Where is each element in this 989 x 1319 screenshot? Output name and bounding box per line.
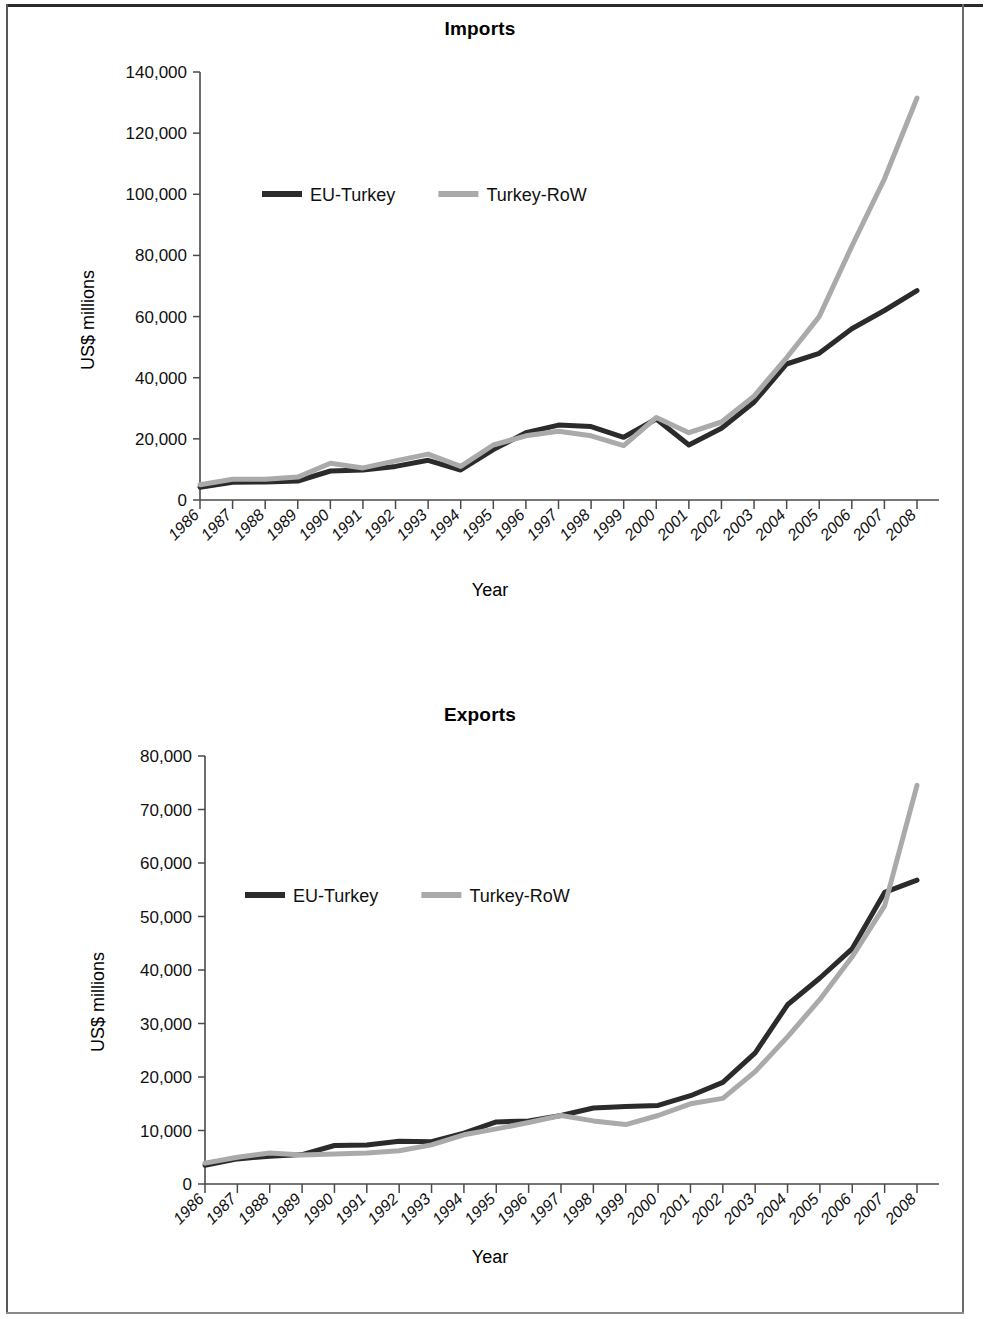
x-tick-label: 2002: [686, 506, 724, 544]
x-tick-label: 1993: [396, 1190, 433, 1227]
x-tick-label: 1992: [364, 1190, 401, 1227]
x-tick-label: 1989: [263, 506, 300, 543]
x-tick-label: 1987: [198, 505, 236, 543]
x-tick-label: 1991: [328, 506, 365, 543]
x-tick-label: 2001: [653, 506, 691, 544]
y-tick-label: 20,000: [140, 1068, 192, 1087]
page-border-bottom: [6, 1312, 964, 1314]
x-tick-label: 2004: [751, 506, 789, 544]
x-tick-label: 1994: [429, 1190, 466, 1227]
imports-chart-panel: Imports US$ millions Year 020,00040,0006…: [0, 0, 960, 660]
x-tick-label: 1988: [235, 1190, 272, 1227]
y-tick-label: 140,000: [126, 63, 187, 82]
x-tick-label: 2001: [655, 1190, 693, 1228]
series-line-eu-turkey: [200, 291, 917, 488]
y-tick-label: 80,000: [140, 747, 192, 766]
y-tick-label: 70,000: [140, 801, 192, 820]
x-tick-label: 2008: [881, 1190, 919, 1228]
x-tick-label: 1987: [202, 1189, 240, 1227]
x-tick-label: 2007: [849, 1189, 888, 1228]
x-tick-label: 2006: [816, 506, 854, 544]
x-tick-label: 2007: [849, 505, 888, 544]
x-tick-label: 2005: [784, 1190, 822, 1228]
legend-label: EU-Turkey: [310, 185, 395, 205]
x-tick-label: 2000: [620, 506, 658, 544]
x-tick-label: 1986: [170, 1190, 207, 1227]
legend-label: Turkey-RoW: [486, 185, 586, 205]
x-tick-label: 1988: [230, 506, 267, 543]
x-tick-label: 2003: [719, 1190, 757, 1228]
y-tick-label: 50,000: [140, 908, 192, 927]
imports-plot-area: 020,00040,00060,00080,000100,000120,0001…: [0, 0, 960, 660]
y-tick-label: 60,000: [135, 308, 187, 327]
y-tick-label: 80,000: [135, 246, 187, 265]
x-tick-label: 1996: [494, 1190, 531, 1227]
legend-label: Turkey-RoW: [469, 886, 569, 906]
x-tick-label: 1992: [360, 506, 397, 543]
series-line-turkey-row: [205, 785, 917, 1163]
x-tick-label: 1997: [523, 505, 561, 543]
x-tick-label: 2000: [622, 1190, 660, 1228]
exports-plot-area: 010,00020,00030,00040,00050,00060,00070,…: [0, 692, 960, 1312]
page-border-right: [962, 4, 964, 1314]
series-line-eu-turkey: [205, 880, 917, 1165]
x-tick-label: 1993: [393, 506, 430, 543]
exports-chart-panel: Exports US$ millions Year 010,00020,0003…: [0, 692, 960, 1312]
x-tick-label: 1990: [299, 1190, 336, 1227]
x-tick-label: 1999: [589, 506, 626, 543]
x-tick-label: 1997: [526, 1189, 564, 1227]
legend-label: EU-Turkey: [293, 886, 378, 906]
y-tick-label: 40,000: [135, 369, 187, 388]
y-tick-label: 10,000: [140, 1122, 192, 1141]
x-tick-label: 1995: [461, 1190, 498, 1227]
y-tick-label: 120,000: [126, 124, 187, 143]
x-tick-label: 2005: [783, 506, 821, 544]
x-tick-label: 1989: [267, 1190, 304, 1227]
x-tick-label: 1990: [295, 506, 332, 543]
x-tick-label: 2002: [687, 1190, 725, 1228]
page-root: Imports US$ millions Year 020,00040,0006…: [0, 0, 989, 1319]
y-tick-label: 20,000: [135, 430, 187, 449]
y-tick-label: 0: [178, 491, 187, 510]
x-tick-label: 1995: [458, 506, 495, 543]
y-tick-label: 100,000: [126, 185, 187, 204]
y-tick-label: 0: [183, 1175, 192, 1194]
x-tick-label: 1996: [491, 506, 528, 543]
y-tick-label: 60,000: [140, 854, 192, 873]
x-tick-label: 1999: [591, 1190, 628, 1227]
y-tick-label: 30,000: [140, 1015, 192, 1034]
x-tick-label: 2003: [718, 506, 756, 544]
x-tick-label: 1991: [332, 1190, 369, 1227]
x-tick-label: 1998: [556, 506, 593, 543]
x-tick-label: 1986: [165, 506, 202, 543]
y-tick-label: 40,000: [140, 961, 192, 980]
x-tick-label: 2004: [752, 1190, 790, 1228]
x-tick-label: 1998: [558, 1190, 595, 1227]
x-tick-label: 2008: [881, 506, 919, 544]
x-tick-label: 2006: [816, 1190, 854, 1228]
x-tick-label: 1994: [426, 506, 463, 543]
